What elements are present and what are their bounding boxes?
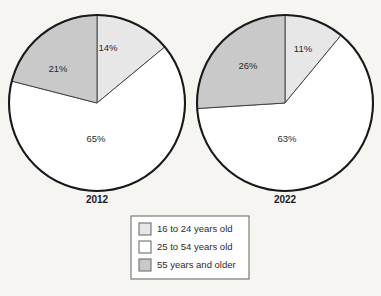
pie-year-label-2022: 2022 [274,194,297,205]
two-pie-chart-figure: 14% 65% 21% 2012 11% 63% 26% 2022 16 to … [0,0,381,296]
legend-swatch-16-to-24 [139,223,151,235]
legend-label-25-to-54: 25 to 54 years old [157,241,233,252]
legend-label-55-plus: 55 years and older [157,259,236,270]
legend-swatch-55-plus [139,259,151,271]
pie-year-label-2012: 2012 [86,194,109,205]
pie-label-2012-55-plus: 21% [48,63,68,74]
pie-label-2012-25-to-54: 65% [86,133,106,144]
pie-label-2022-16-to-24: 11% [294,43,313,54]
legend-label-16-to-24: 16 to 24 years old [157,223,233,234]
pie-label-2012-16-to-24: 14% [98,42,118,53]
legend: 16 to 24 years old 25 to 54 years old 55… [131,216,249,279]
pie-label-2022-55-plus: 26% [238,60,258,71]
legend-swatch-25-to-54 [139,241,151,253]
pie-label-2022-25-to-54: 63% [277,133,297,144]
